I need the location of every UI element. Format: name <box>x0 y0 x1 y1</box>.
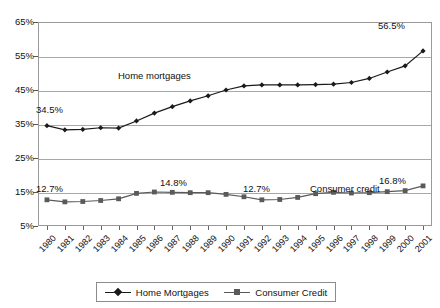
x-tick-label-1990: 1990 <box>209 233 237 261</box>
data-point-diamond <box>188 98 193 103</box>
data-point-square <box>62 199 67 204</box>
data-point-square <box>206 190 211 195</box>
x-tick-label-1997: 1997 <box>334 233 362 261</box>
data-point-diamond <box>44 123 49 128</box>
x-tick-label-1996: 1996 <box>316 233 344 261</box>
x-tick-label-1980: 1980 <box>30 233 58 261</box>
x-tick-label-1984: 1984 <box>101 233 129 261</box>
data-point-square <box>331 190 336 195</box>
square-marker-icon <box>224 288 250 297</box>
x-tick-label-1995: 1995 <box>298 233 326 261</box>
data-point-diamond <box>80 127 85 132</box>
x-tick-label-1986: 1986 <box>137 233 165 261</box>
x-tick-mark-1995 <box>316 226 317 230</box>
x-tick-mark-1989 <box>208 226 209 230</box>
x-tick-mark-1987 <box>172 226 173 230</box>
data-point-square <box>224 192 229 197</box>
x-tick-label-1989: 1989 <box>191 233 219 261</box>
x-tick-mark-1980 <box>47 226 48 230</box>
series-line <box>47 51 423 130</box>
data-point-square <box>367 190 372 195</box>
data-point-square <box>134 191 139 196</box>
data-point-square <box>313 191 318 196</box>
data-point-diamond <box>206 93 211 98</box>
legend-entry-home-mortgages[interactable]: Home Mortgages <box>105 287 209 298</box>
series-consumer-credit <box>45 183 426 204</box>
x-tick-mark-1985 <box>137 226 138 230</box>
data-point-square <box>80 199 85 204</box>
data-point-square <box>188 190 193 195</box>
y-tick-label-25: 25% <box>0 153 34 163</box>
x-tick-mark-1991 <box>244 226 245 230</box>
x-tick-mark-1998 <box>369 226 370 230</box>
x-tick-label-1993: 1993 <box>263 233 291 261</box>
y-tick-mark-5 <box>33 226 38 227</box>
legend-entry-consumer-credit[interactable]: Consumer Credit <box>224 287 327 298</box>
data-point-diamond <box>259 82 264 87</box>
data-point-square <box>403 188 408 193</box>
x-tick-mark-1988 <box>190 226 191 230</box>
data-point-diamond <box>134 118 139 123</box>
data-point-square <box>349 191 354 196</box>
x-tick-mark-1983 <box>101 226 102 230</box>
x-tick-mark-1981 <box>65 226 66 230</box>
data-point-diamond <box>277 82 282 87</box>
chart-legend: Home MortgagesConsumer Credit <box>96 282 336 302</box>
data-point-diamond <box>62 127 67 132</box>
data-point-square <box>385 189 390 194</box>
series-line <box>47 186 423 202</box>
x-tick-mark-2000 <box>405 226 406 230</box>
x-tick-label-2001: 2001 <box>406 233 434 261</box>
data-point-diamond <box>241 83 246 88</box>
x-tick-mark-2001 <box>423 226 424 230</box>
y-tick-label-45: 45% <box>0 85 34 95</box>
x-tick-mark-1997 <box>351 226 352 230</box>
x-tick-mark-1994 <box>298 226 299 230</box>
x-tick-label-1985: 1985 <box>119 233 147 261</box>
y-tick-label-35: 35% <box>0 119 34 129</box>
x-tick-label-1981: 1981 <box>48 233 76 261</box>
legend-label: Home Mortgages <box>136 287 209 298</box>
data-point-square <box>116 196 121 201</box>
series-home-mortgages <box>44 48 425 132</box>
series-plot <box>38 22 432 226</box>
data-point-square <box>259 197 264 202</box>
y-tick-label-5: 5% <box>0 221 34 231</box>
data-point-diamond <box>223 87 228 92</box>
data-point-square <box>45 197 50 202</box>
y-tick-label-55: 55% <box>0 51 34 61</box>
x-tick-mark-1982 <box>83 226 84 230</box>
x-tick-label-1999: 1999 <box>370 233 398 261</box>
data-point-diamond <box>385 69 390 74</box>
y-tick-label-65: 65% <box>0 17 34 27</box>
data-point-square <box>152 190 157 195</box>
data-point-square <box>421 183 426 188</box>
x-tick-label-1991: 1991 <box>227 233 255 261</box>
x-tick-mark-1996 <box>334 226 335 230</box>
x-tick-mark-1986 <box>154 226 155 230</box>
x-tick-label-1994: 1994 <box>280 233 308 261</box>
data-point-diamond <box>349 80 354 85</box>
x-tick-mark-1992 <box>262 226 263 230</box>
x-tick-mark-1999 <box>387 226 388 230</box>
diamond-marker-icon <box>105 288 131 297</box>
data-point-diamond <box>170 104 175 109</box>
data-point-square <box>242 194 247 199</box>
data-point-square <box>295 195 300 200</box>
data-point-square <box>277 197 282 202</box>
data-point-diamond <box>331 82 336 87</box>
x-tick-label-1983: 1983 <box>83 233 111 261</box>
x-tick-label-1998: 1998 <box>352 233 380 261</box>
data-point-diamond <box>116 125 121 130</box>
x-tick-label-1982: 1982 <box>66 233 94 261</box>
data-point-diamond <box>367 76 372 81</box>
y-tick-label-15: 15% <box>0 187 34 197</box>
data-point-diamond <box>295 82 300 87</box>
data-point-square <box>170 190 175 195</box>
x-tick-label-1987: 1987 <box>155 233 183 261</box>
data-point-diamond <box>98 125 103 130</box>
line-chart: 65%55%45%35%25%15%5% 1980198119821983198… <box>0 0 440 308</box>
x-tick-mark-1993 <box>280 226 281 230</box>
x-tick-label-1992: 1992 <box>245 233 273 261</box>
x-tick-label-1988: 1988 <box>173 233 201 261</box>
